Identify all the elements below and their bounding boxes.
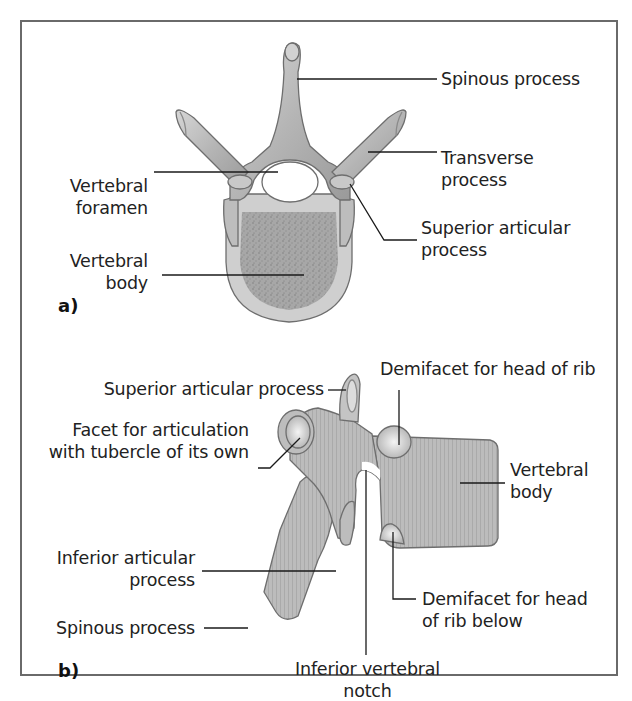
label-vertebral-body-a: Vertebral body (70, 250, 148, 294)
label-transverse-line2: process (441, 169, 533, 191)
label-inferior-articular-b: Inferior articular process (57, 547, 195, 591)
label-tubercle-line2: with tubercle of its own (49, 441, 249, 463)
vertebral-foramen-shape (262, 162, 318, 202)
label-notch-line2: notch (290, 680, 445, 701)
label-notch-line1: Inferior vertebral (290, 658, 445, 680)
label-superior-articular-a: Superior articular process (421, 217, 570, 261)
vertebra-lateral-view (264, 374, 498, 619)
label-body-line1: Vertebral (70, 250, 148, 272)
label-transverse-line1: Transverse (441, 147, 533, 169)
label-inf-articular-line2: process (57, 569, 195, 591)
label-transverse-process-a: Transverse process (441, 147, 533, 191)
label-body-b-line1: Vertebral (510, 459, 588, 481)
label-demifacet-below-line2: of rib below (422, 610, 588, 632)
label-sup-articular-line1: Superior articular (421, 217, 570, 239)
demifacet-upper-shape (377, 426, 411, 458)
label-demifacet-below-b: Demifacet for head of rib below (422, 588, 588, 632)
label-sup-articular-line2: process (421, 239, 570, 261)
label-demifacet-head-b: Demifacet for head of rib (380, 358, 595, 380)
vertebra-superior-view (176, 43, 406, 322)
label-tubercle-line1: Facet for articulation (49, 419, 249, 441)
leader-superior-articular-a (350, 184, 417, 240)
label-superior-articular-b: Superior articular process (104, 378, 324, 400)
label-spinous-process-a: Spinous process (441, 68, 580, 90)
vertebral-body-cancellous (240, 212, 338, 310)
panel-a-tag: a) (58, 295, 78, 316)
label-vertebral-body-b: Vertebral body (510, 459, 588, 503)
label-inferior-notch-b: Inferior vertebral notch (290, 658, 445, 701)
label-inf-articular-line1: Inferior articular (57, 547, 195, 569)
label-foramen-line2: foramen (70, 197, 148, 219)
label-foramen-line1: Vertebral (70, 175, 148, 197)
label-body-line2: body (70, 272, 148, 294)
label-demifacet-below-line1: Demifacet for head (422, 588, 588, 610)
panel-b-tag: b) (58, 660, 79, 681)
label-tubercle-facet-b: Facet for articulation with tubercle of … (49, 419, 249, 463)
label-spinous-process-b: Spinous process (56, 617, 195, 639)
label-body-b-line2: body (510, 481, 588, 503)
label-vertebral-foramen-a: Vertebral foramen (70, 175, 148, 219)
